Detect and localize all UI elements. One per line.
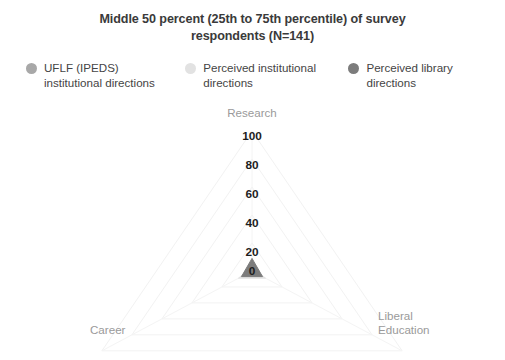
legend-item-perceived-institutional[interactable]: Perceived institutional directions	[185, 60, 348, 90]
legend-item-label: UFLF (IPEDS) institutional directions	[44, 60, 155, 90]
legend-item-perceived-library[interactable]: Perceived library directions	[348, 60, 495, 90]
chart-legend: UFLF (IPEDS) institutional directions Pe…	[26, 60, 495, 90]
legend-item-label: Perceived library directions	[366, 60, 452, 90]
radial-tick-40: 40	[245, 216, 258, 230]
radial-tick-0: 0	[249, 264, 256, 278]
axis-label-liberal-education: Liberal Education	[378, 309, 430, 337]
axis-label-career: Career	[90, 323, 125, 337]
radial-tick-20: 20	[245, 245, 258, 259]
legend-item-uflf-ipeds[interactable]: UFLF (IPEDS) institutional directions	[26, 60, 185, 90]
axis-label-research: Research	[227, 106, 277, 120]
radar-chart-figure: Middle 50 percent (25th to 75th percenti…	[0, 0, 505, 360]
legend-dot-icon	[185, 63, 196, 74]
chart-title-line-1: Middle 50 percent (25th to 75th percenti…	[68, 11, 438, 28]
radar-plot-area: 100 80 60 40 20 0 Research Career Libera…	[0, 96, 505, 360]
radial-tick-80: 80	[245, 158, 258, 172]
chart-title: Middle 50 percent (25th to 75th percenti…	[68, 11, 438, 45]
chart-title-line-2: respondents (N=141)	[68, 28, 438, 45]
legend-dot-icon	[348, 63, 359, 74]
radial-tick-60: 60	[245, 187, 258, 201]
radial-tick-100: 100	[242, 129, 262, 143]
legend-dot-icon	[26, 63, 37, 74]
legend-item-label: Perceived institutional directions	[203, 60, 316, 90]
